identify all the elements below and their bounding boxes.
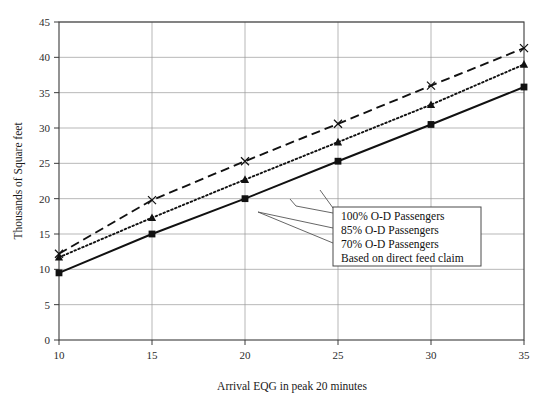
y-tick-label: 10 (39, 263, 51, 275)
legend-item-1: 85% O-D Passengers (341, 224, 439, 237)
data-point-marker (428, 121, 435, 128)
y-tick-label: 35 (39, 87, 51, 99)
data-point-marker (242, 195, 249, 202)
y-tick-label: 0 (45, 334, 51, 346)
line-chart: 051015202530354045 101520253035 100% O-D… (0, 0, 542, 413)
y-tick-label: 20 (39, 193, 51, 205)
data-point-marker (56, 269, 63, 276)
data-point-marker (335, 158, 342, 165)
y-tick-label: 45 (39, 16, 51, 28)
x-tick-label: 20 (240, 349, 252, 361)
x-tick-label: 25 (333, 349, 345, 361)
y-tick-label: 15 (39, 228, 51, 240)
x-tick-label: 35 (519, 349, 531, 361)
y-tick-label: 40 (39, 51, 51, 63)
y-axis-title: Thousands of Square feet (12, 122, 25, 240)
x-axis-title: Arrival EQG in peak 20 minutes (217, 380, 367, 393)
y-tick-label: 25 (39, 157, 51, 169)
legend-box: 100% O-D Passengers 85% O-D Passengers 7… (333, 207, 481, 266)
legend-item-2: 70% O-D Passengers (341, 238, 439, 251)
data-point-marker (521, 84, 528, 91)
data-point-marker (149, 231, 156, 238)
y-tick-label: 30 (39, 122, 51, 134)
chart-container: 051015202530354045 101520253035 100% O-D… (0, 0, 542, 413)
legend-item-0: 100% O-D Passengers (341, 210, 445, 223)
y-tick-label: 5 (45, 299, 51, 311)
legend-item-3: Based on direct feed claim (341, 252, 464, 264)
x-tick-label: 30 (426, 349, 438, 361)
x-tick-label: 15 (147, 349, 159, 361)
x-tick-label: 10 (54, 349, 66, 361)
